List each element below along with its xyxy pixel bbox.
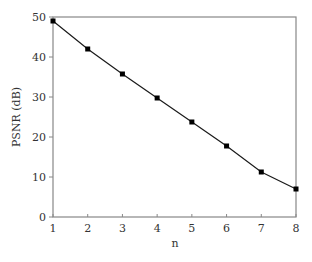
square-marker (294, 187, 299, 192)
square-marker (259, 170, 264, 175)
psnr-line-chart: 01020304050 12345678 n PSNR (dB) (0, 0, 312, 262)
y-tick-label: 50 (32, 11, 46, 24)
y-axis-ticks: 01020304050 (32, 11, 53, 224)
square-marker (120, 72, 125, 77)
x-tick-label: 3 (119, 222, 126, 235)
y-tick-label: 0 (39, 211, 46, 224)
data-series-markers (51, 19, 299, 192)
square-marker (189, 120, 194, 125)
y-tick-label: 30 (32, 91, 46, 104)
y-tick-label: 10 (32, 171, 46, 184)
x-tick-label: 5 (188, 222, 195, 235)
x-tick-label: 6 (223, 222, 230, 235)
y-axis-label: PSNR (dB) (10, 87, 23, 147)
x-tick-label: 1 (50, 222, 57, 235)
x-axis-label: n (171, 237, 178, 250)
y-tick-label: 40 (32, 51, 46, 64)
square-marker (155, 96, 160, 101)
y-tick-label: 20 (32, 131, 46, 144)
x-tick-label: 7 (258, 222, 265, 235)
x-tick-label: 2 (84, 222, 91, 235)
square-marker (224, 144, 229, 149)
square-marker (51, 19, 56, 24)
x-tick-label: 4 (154, 222, 161, 235)
series-polyline (53, 21, 296, 189)
x-tick-label: 8 (293, 222, 300, 235)
square-marker (85, 47, 90, 52)
data-series-line (53, 21, 296, 189)
